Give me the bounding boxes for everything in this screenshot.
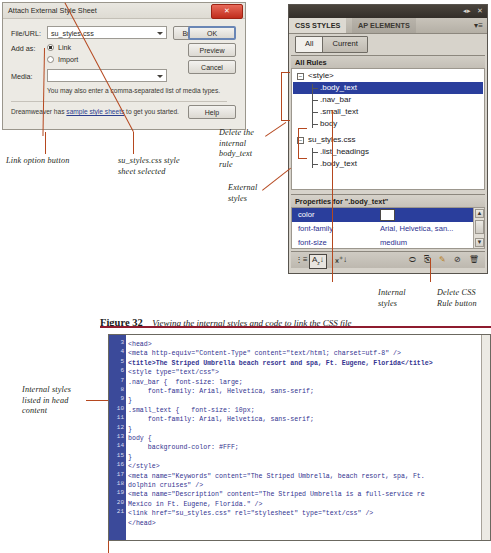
code-line-number: 19 (117, 488, 124, 497)
footer-note-prefix: Dreamweaver has (11, 108, 65, 115)
rule-style-block[interactable]: <style> (308, 70, 334, 82)
chevron-down-icon[interactable] (157, 32, 163, 35)
tree-connector (312, 148, 313, 168)
code-line[interactable]: Mexico in Ft. Eugene, Florida." /> (128, 500, 263, 509)
tree-connector (312, 124, 318, 125)
code-line[interactable]: dolphin cruises" /> (128, 481, 203, 490)
properties-grid[interactable]: color font-family Arial, Helvetica, san.… (291, 207, 485, 249)
code-line[interactable]: <link href="su_styles.css" rel="styleshe… (128, 509, 373, 518)
property-name: font-family (298, 222, 333, 236)
code-line[interactable]: .small_text { font-size: 10px; (128, 406, 255, 415)
code-line[interactable]: <head> (128, 340, 152, 349)
scrollbar-thumb[interactable] (475, 220, 484, 234)
code-line-number-gutter: 3456789101112131415161718192021 (109, 335, 126, 540)
cancel-button[interactable]: Cancel (188, 60, 236, 74)
leader-line (332, 110, 333, 282)
leader-line (430, 258, 431, 282)
code-line[interactable]: <style type="text/css"> (128, 368, 219, 377)
rule-body-text-internal[interactable]: .body_text (293, 82, 483, 94)
code-line-number: 18 (117, 479, 124, 488)
media-label: Media: (11, 72, 33, 81)
code-line[interactable]: } (128, 453, 132, 462)
code-line-number: 3 (120, 338, 124, 347)
annotation-external-styles: External styles (228, 183, 258, 204)
category-view-icon[interactable]: ⋮≡ (295, 255, 308, 265)
code-line[interactable]: .nav_bar { font-size: large; (128, 378, 243, 387)
code-line-number: 20 (117, 498, 124, 507)
rules-scope-toggle: All Current (295, 36, 368, 53)
edit-rule-icon[interactable]: ✎ (439, 255, 446, 265)
panel-tab-strip: CSS STYLES AP ELEMENTS ▾≡ (289, 18, 487, 34)
add-as-label: Add as: (11, 44, 35, 53)
code-line[interactable]: <meta http-equiv="Content-Type" content=… (128, 349, 401, 358)
rule-nav-bar[interactable]: .nav_bar (320, 94, 351, 106)
rule-list-headings[interactable]: .list_headings (320, 146, 369, 158)
add-as-import-label[interactable]: Import (58, 55, 78, 64)
file-url-label: File/URL: (11, 29, 41, 38)
code-view[interactable]: 3456789101112131415161718192021 <head><m… (108, 334, 491, 541)
annotation-internal-styles-head: Internal styles listed in head content (22, 385, 71, 417)
panel-titlebar: ◂▸ ✕ (289, 5, 487, 18)
scroll-up-arrow-icon[interactable]: ▲ (475, 209, 484, 218)
rule-body-text-external[interactable]: .body_text (320, 158, 357, 170)
ok-button[interactable]: OK (188, 26, 236, 40)
code-line[interactable]: font-family: Arial, Helvetica, sans-seri… (128, 415, 314, 424)
chevron-down-icon[interactable] (157, 75, 163, 78)
tab-css-styles[interactable]: CSS STYLES (289, 18, 346, 33)
code-line[interactable]: </head> (128, 519, 156, 528)
property-row-font-size[interactable]: font-size medium (292, 236, 484, 249)
code-line[interactable]: font-family: Arial, Helvetica, sans-seri… (128, 387, 314, 396)
segment-all[interactable]: All (296, 37, 323, 52)
code-line-number: 15 (117, 451, 124, 460)
leader-line (265, 122, 286, 137)
all-rules-tree[interactable]: − <style> .body_text .nav_bar .small_tex… (291, 68, 485, 190)
close-icon[interactable]: ✕ (211, 4, 243, 19)
add-as-link-label[interactable]: Link (58, 43, 71, 52)
code-line-number: 17 (117, 470, 124, 479)
code-line[interactable]: <meta name="Keywords" content="The Strip… (128, 472, 425, 481)
code-line-number: 13 (117, 432, 124, 441)
code-line[interactable]: } (128, 425, 132, 434)
tab-ap-elements[interactable]: AP ELEMENTS (352, 18, 416, 33)
rule-small-text[interactable]: .small_text (320, 106, 358, 118)
color-swatch[interactable] (380, 209, 395, 221)
add-as-link-radio[interactable] (47, 44, 54, 51)
code-line-number: 6 (120, 366, 124, 375)
code-line[interactable]: </style> (128, 462, 160, 471)
properties-header: Properties for ".body_text" (291, 194, 485, 208)
code-line[interactable]: <title>The Striped Umbrella beach resort… (128, 359, 433, 368)
add-as-import-radio[interactable] (47, 56, 54, 63)
property-row-color[interactable]: color (292, 208, 484, 222)
code-line-number: 9 (120, 394, 124, 403)
sample-style-sheets-link[interactable]: sample style sheets (66, 108, 124, 115)
footer-note-suffix: to get you started. (126, 108, 179, 115)
preview-button[interactable]: Preview (188, 43, 236, 57)
rule-label: .body_text (293, 83, 357, 92)
collapse-icon[interactable]: ◂▸ (463, 7, 471, 15)
segment-current[interactable]: Current (323, 37, 366, 52)
code-line[interactable]: background-color: #FFF; (128, 443, 239, 452)
code-line-number: 8 (120, 385, 124, 394)
property-value[interactable]: medium (380, 236, 407, 249)
help-button[interactable]: Help (188, 105, 236, 119)
code-line[interactable]: body { (128, 434, 152, 443)
property-value[interactable]: Arial, Helvetica, san... (380, 222, 453, 236)
set-properties-view-icon[interactable]: ⁎⁺↓ (335, 255, 347, 265)
disable-property-icon[interactable]: ⊘ (454, 255, 461, 265)
close-icon[interactable]: ✕ (477, 7, 483, 15)
attach-style-sheet-icon[interactable]: ⬭ (409, 255, 416, 265)
file-url-input[interactable]: su_styles.css (47, 26, 167, 39)
panel-menu-icon[interactable]: ▾≡ (474, 21, 483, 30)
code-line[interactable]: } (128, 396, 132, 405)
scroll-down-arrow-icon[interactable]: ▼ (475, 238, 484, 247)
alphabetical-view-icon[interactable]: Az↓ (309, 254, 327, 269)
properties-scrollbar[interactable]: ▲ ▼ (473, 208, 484, 248)
tree-toggle-style[interactable]: − (297, 73, 304, 80)
code-line[interactable]: <meta name="Description" content="The St… (128, 490, 425, 499)
rule-body[interactable]: body (320, 118, 337, 130)
code-line-number: 5 (120, 357, 124, 366)
code-line-number: 7 (120, 376, 124, 385)
property-row-font-family[interactable]: font-family Arial, Helvetica, san... (292, 222, 484, 236)
code-scrollbar[interactable] (481, 335, 490, 540)
delete-css-rule-icon[interactable]: 🗑 (469, 255, 479, 265)
